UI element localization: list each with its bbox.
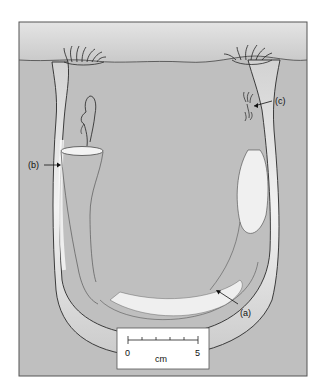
svg-text:(c): (c) [275,96,286,106]
svg-text:(a): (a) [240,308,251,318]
scale-start: 0 [125,348,130,358]
scale-unit: cm [155,354,167,364]
scale-end: 5 [195,348,200,358]
scale-bar: 0 5 cm [117,328,209,369]
svg-text:(b): (b) [28,160,39,170]
burrow-diagram: (c) (b) (a) 0 5 cm [0,0,322,392]
